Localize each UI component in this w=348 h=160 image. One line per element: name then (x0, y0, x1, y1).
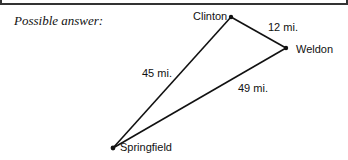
edge-weldon-springfield (113, 48, 286, 148)
distance-clinton-springfield: 45 mi. (142, 67, 172, 79)
label-springfield: Springfield (120, 141, 172, 153)
point-clinton (229, 15, 233, 19)
label-weldon: Weldon (296, 43, 333, 55)
label-clinton: Clinton (193, 10, 227, 22)
distance-weldon-springfield: 49 mi. (238, 82, 268, 94)
point-weldon (284, 46, 288, 50)
distance-clinton-weldon: 12 mi. (268, 21, 298, 33)
point-springfield (111, 146, 116, 151)
edge-clinton-springfield (113, 17, 231, 148)
diagram-root: Possible answer: Clinton Weldon Springfi… (0, 0, 348, 160)
